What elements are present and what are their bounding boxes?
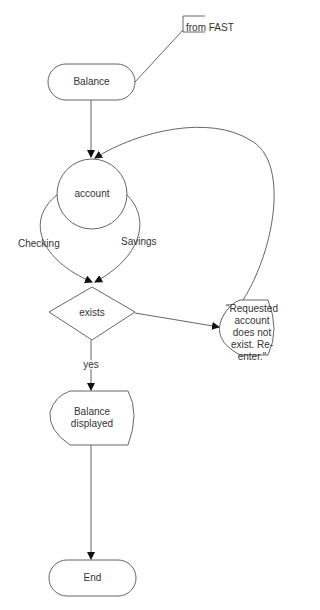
node-end-label[interactable]: End (49, 572, 136, 584)
node-display-label[interactable]: Balance displayed (62, 406, 122, 430)
edge-label-savings: Savings (121, 236, 157, 248)
annotation-from-fast: from FAST (186, 22, 234, 34)
node-error-label[interactable]: "Requested account does not exist. Re-en… (223, 303, 281, 363)
annotation-connector (135, 30, 183, 82)
node-exists-label[interactable]: exists (60, 307, 124, 319)
node-account-label[interactable]: account (57, 188, 127, 200)
edge-label-checking: Checking (18, 238, 60, 250)
edge-error-account (95, 127, 274, 300)
node-start-label[interactable]: Balance (48, 76, 135, 88)
edge-label-yes: yes (80, 359, 102, 371)
edge-exists-error (135, 313, 219, 327)
